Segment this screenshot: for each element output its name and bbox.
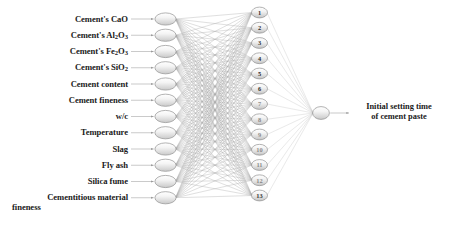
input-node — [155, 94, 176, 106]
connection-line — [267, 13, 313, 114]
output-node-shape — [313, 107, 330, 120]
input-label: Slag — [112, 144, 128, 154]
hidden-node-number: 9 — [258, 131, 261, 138]
input-label: Cement's Al2O3 — [71, 30, 128, 42]
input-label: Cement fineness — [69, 95, 128, 105]
output-label-line: of cement paste — [371, 112, 426, 121]
input-node — [155, 62, 176, 74]
neural-network-diagram: 12345678910111213 Cement's CaOCement's A… — [0, 0, 450, 229]
input-label: Cement's CaO — [75, 14, 128, 24]
hidden-nodes: 12345678910111213 — [252, 7, 268, 201]
connection-line — [176, 135, 252, 198]
hidden-node-number: 13 — [256, 192, 262, 199]
output-node — [313, 107, 330, 120]
hidden-node-number: 1 — [258, 9, 261, 16]
connection-line — [267, 58, 313, 113]
connection-line — [267, 74, 313, 114]
input-node — [155, 143, 176, 155]
connection-line — [267, 113, 313, 165]
connection-line — [176, 19, 252, 43]
input-node — [155, 159, 176, 171]
connection-line — [267, 89, 313, 113]
input-label: Cementitious materialfineness — [10, 192, 128, 212]
connection-line — [267, 113, 313, 196]
input-nodes — [155, 13, 176, 204]
input-node — [155, 29, 176, 41]
output-label-line: Initial setting time — [366, 102, 432, 111]
output-label: Initial setting timeof cement paste — [353, 102, 445, 123]
input-label: Temperature — [81, 127, 128, 137]
hidden-node-number: 5 — [258, 70, 261, 77]
input-node — [155, 45, 176, 57]
input-node — [155, 192, 176, 204]
input-node — [155, 78, 176, 90]
input-arrows — [131, 19, 154, 198]
hidden-node-number: 12 — [256, 177, 262, 184]
connection-line — [267, 43, 313, 113]
hidden-node-number: 3 — [258, 39, 261, 46]
hidden-node-number: 11 — [256, 161, 262, 168]
input-label: Cement's SiO2 — [75, 62, 128, 74]
input-node — [155, 127, 176, 139]
input-label: Silica fume — [88, 176, 128, 186]
input-to-hidden-connections — [176, 13, 252, 198]
input-node — [155, 13, 176, 25]
input-label: Fly ash — [102, 160, 128, 170]
connection-line — [267, 113, 313, 180]
connection-line — [267, 104, 313, 113]
input-label: Cement's Fe2O3 — [70, 46, 128, 58]
hidden-node-number: 10 — [256, 146, 262, 153]
input-node — [155, 175, 176, 187]
hidden-node-number: 8 — [258, 116, 261, 123]
input-node — [155, 110, 176, 122]
hidden-to-output-connections — [267, 13, 313, 196]
input-label: w/c — [116, 111, 128, 121]
connection-line — [176, 196, 252, 198]
connection-line — [267, 28, 313, 113]
connection-line — [176, 43, 252, 52]
hidden-node-number: 2 — [258, 24, 261, 31]
connection-line — [176, 180, 252, 198]
input-label: Cement content — [71, 79, 128, 89]
